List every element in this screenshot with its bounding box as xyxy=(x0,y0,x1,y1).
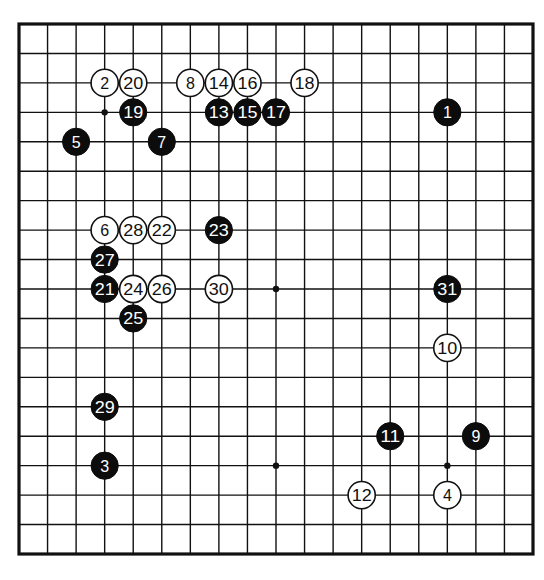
move-number: 31 xyxy=(437,281,457,298)
stone-white-30: 30 xyxy=(205,275,232,302)
stone-black-27: 27 xyxy=(91,246,118,273)
stone-white-18: 18 xyxy=(291,69,318,96)
stone-white-22: 22 xyxy=(148,217,175,244)
move-number: 12 xyxy=(352,487,372,504)
stone-black-19: 19 xyxy=(120,99,147,126)
stone-black-7: 7 xyxy=(148,128,175,155)
move-number: 23 xyxy=(209,222,229,239)
move-number: 6 xyxy=(100,222,109,239)
stone-white-4: 4 xyxy=(434,482,461,509)
move-number: 29 xyxy=(95,399,115,416)
stone-white-16: 16 xyxy=(234,69,261,96)
stone-black-29: 29 xyxy=(91,393,118,420)
go-board: 1234567891011121314151617181920212223242… xyxy=(0,0,544,580)
stone-black-15: 15 xyxy=(234,99,261,126)
move-number: 27 xyxy=(95,252,115,269)
move-number: 3 xyxy=(100,458,109,475)
star-point xyxy=(273,462,279,468)
star-point xyxy=(101,109,107,115)
move-number: 20 xyxy=(123,75,143,92)
move-number: 21 xyxy=(95,281,115,298)
stone-black-31: 31 xyxy=(434,275,461,302)
move-number: 15 xyxy=(237,104,257,121)
stone-white-14: 14 xyxy=(205,69,232,96)
stone-white-24: 24 xyxy=(120,275,147,302)
move-number: 17 xyxy=(266,104,286,121)
move-number: 11 xyxy=(380,428,400,445)
stone-white-28: 28 xyxy=(120,217,147,244)
stone-white-26: 26 xyxy=(148,275,175,302)
move-number: 1 xyxy=(443,104,452,121)
stone-white-10: 10 xyxy=(434,334,461,361)
move-number: 26 xyxy=(152,281,172,298)
move-number: 30 xyxy=(209,281,229,298)
move-number: 24 xyxy=(123,281,143,298)
stone-white-2: 2 xyxy=(91,69,118,96)
move-number: 14 xyxy=(209,75,229,92)
stone-black-11: 11 xyxy=(377,423,404,450)
star-point xyxy=(273,286,279,292)
move-number: 19 xyxy=(123,104,143,121)
stone-black-9: 9 xyxy=(462,423,489,450)
stone-black-13: 13 xyxy=(205,99,232,126)
move-number: 9 xyxy=(471,428,480,445)
stone-black-25: 25 xyxy=(120,305,147,332)
stone-white-20: 20 xyxy=(120,69,147,96)
stone-white-12: 12 xyxy=(348,482,375,509)
move-number: 13 xyxy=(209,104,229,121)
stone-black-21: 21 xyxy=(91,275,118,302)
move-number: 18 xyxy=(295,75,315,92)
move-number: 4 xyxy=(443,487,452,504)
move-number: 7 xyxy=(157,134,166,151)
move-number: 10 xyxy=(437,340,457,357)
star-point xyxy=(444,462,450,468)
move-number: 8 xyxy=(186,75,195,92)
stone-black-17: 17 xyxy=(262,99,289,126)
stone-black-3: 3 xyxy=(91,452,118,479)
stone-white-8: 8 xyxy=(177,69,204,96)
move-number: 16 xyxy=(237,75,257,92)
move-number: 22 xyxy=(152,222,172,239)
stone-black-23: 23 xyxy=(205,217,232,244)
move-number: 2 xyxy=(100,75,109,92)
stone-black-5: 5 xyxy=(63,128,90,155)
move-number: 5 xyxy=(72,134,81,151)
move-number: 28 xyxy=(123,222,143,239)
move-number: 25 xyxy=(123,310,143,327)
stone-black-1: 1 xyxy=(434,99,461,126)
go-board-svg: 1234567891011121314151617181920212223242… xyxy=(0,0,544,580)
stone-white-6: 6 xyxy=(91,217,118,244)
